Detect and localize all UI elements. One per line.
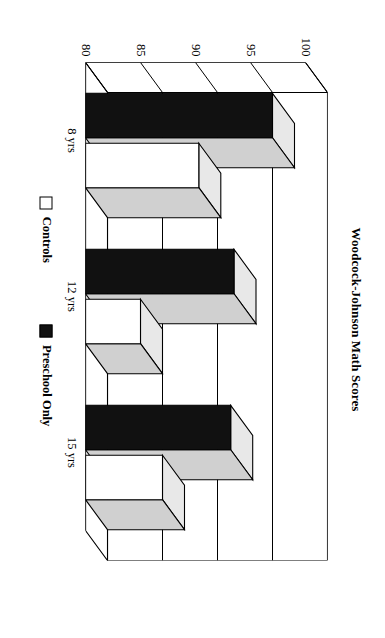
bar-front-face	[85, 143, 198, 187]
bar-front-face	[85, 405, 230, 449]
legend-swatch-black-square	[39, 324, 52, 337]
plot-svg	[85, 62, 327, 560]
chart-figure: Woodcock-Johnson Math Scores 10095908580…	[0, 0, 385, 638]
rotated-chart-canvas: Woodcock-Johnson Math Scores 10095908580…	[0, 0, 385, 638]
bar-front-face	[85, 455, 162, 499]
value-axis-tick-label: 90	[188, 16, 203, 56]
plot-area	[85, 62, 327, 560]
legend-swatch-white-square	[39, 196, 52, 209]
legend-item-preschool-only: Preschool Only	[38, 324, 53, 425]
bar-front-face	[85, 93, 272, 137]
value-axis-tick-label: 100	[298, 16, 313, 56]
legend-label-controls: Controls	[38, 216, 53, 262]
legend-label-preschool-only: Preschool Only	[38, 344, 53, 425]
value-axis-tick-label: 80	[78, 16, 93, 56]
value-axis-tick-label: 85	[133, 16, 148, 56]
page-title: Woodcock-Johnson Math Scores	[347, 0, 363, 638]
legend-item-controls: Controls	[38, 196, 53, 262]
chart-legend: Controls Preschool Only	[38, 62, 53, 560]
bar-front-face	[85, 249, 234, 293]
category-label-15-yrs: 15 yrs	[63, 437, 78, 468]
bar-controls-8-yrs	[85, 143, 220, 217]
bar-side-face	[85, 187, 220, 217]
category-label-8-yrs: 8 yrs	[63, 128, 78, 153]
bar-front-face	[85, 299, 140, 343]
category-label-12-yrs: 12 yrs	[63, 281, 78, 312]
value-axis-tick-label: 95	[243, 16, 258, 56]
bar-controls-15-yrs	[85, 455, 184, 529]
